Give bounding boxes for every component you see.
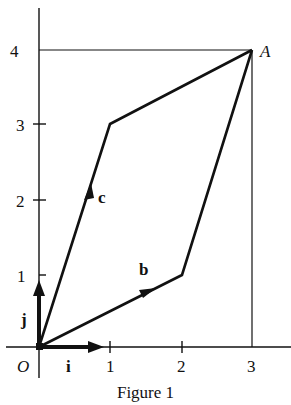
x-tick-label-1: 1 <box>106 357 115 376</box>
x-tick-label-3: 3 <box>247 357 256 376</box>
parallelogram-diagram: 4 3 2 1 1 2 3 O A i j b c <box>0 0 291 405</box>
arrowhead-j <box>33 280 45 296</box>
path-c-then-b <box>39 50 252 347</box>
arrowhead-c <box>84 183 94 200</box>
point-A-label: A <box>259 42 271 61</box>
path-b-then-c <box>39 50 252 347</box>
vector-c-label: c <box>98 188 106 207</box>
vector-b-label: b <box>139 260 148 279</box>
y-tick-label-2: 2 <box>16 192 25 211</box>
arrowhead-i <box>88 341 104 353</box>
y-tick-label-4: 4 <box>10 42 19 61</box>
x-tick-label-2: 2 <box>177 357 186 376</box>
origin-label: O <box>17 357 29 376</box>
vector-i-label: i <box>66 357 71 376</box>
figure-caption: Figure 1 <box>0 383 291 403</box>
y-tick-label-3: 3 <box>16 116 25 135</box>
vector-j-label: j <box>20 310 27 329</box>
y-tick-label-1: 1 <box>17 267 26 286</box>
origin-marker <box>36 343 43 350</box>
